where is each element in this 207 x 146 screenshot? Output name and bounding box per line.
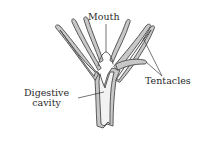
label-mouth: Mouth <box>88 12 120 22</box>
hydra-diagram: Mouth Tentacles Digestive cavity <box>0 0 207 146</box>
label-digestive-line2: cavity <box>24 98 69 108</box>
tentacles-leader-line-1 <box>143 38 162 76</box>
tentacles-leader-line-2 <box>146 62 162 76</box>
label-digestive-cavity: Digestive cavity <box>24 88 69 108</box>
label-tentacles: Tentacles <box>145 76 191 86</box>
